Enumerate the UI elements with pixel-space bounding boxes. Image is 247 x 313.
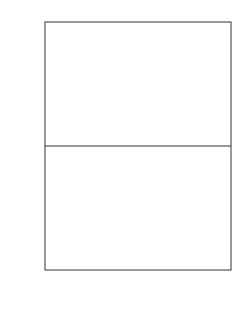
chart-figure [0, 0, 247, 313]
